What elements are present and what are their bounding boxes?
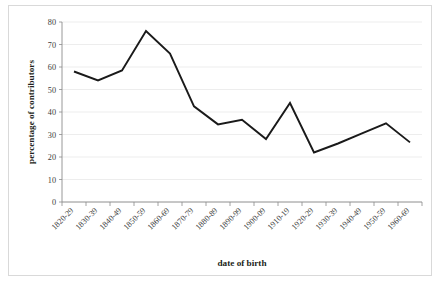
x-tick-label: 1870-79 [170,206,196,232]
y-tick-label: 0 [52,198,56,207]
x-tick-label: 1820-29 [50,206,76,232]
x-axis-group [62,202,422,206]
y-axis-title: percentage of contributors [26,60,36,164]
x-tick-label: 1960-69 [386,206,412,232]
x-tick-label: 1920-29 [290,206,316,232]
chart-figure: 01020304050607080 1820-291830-391840-491… [0,0,442,288]
y-tick-labels: 01020304050607080 [48,18,56,207]
x-tick-label: 1860-69 [146,206,172,232]
x-tick-label: 1910-19 [266,206,292,232]
x-tick-label: 1880-89 [194,206,220,232]
y-tick-label: 10 [48,176,56,185]
y-tick-label: 40 [48,108,56,117]
x-tick-label: 1940-49 [338,206,364,232]
y-tick-label: 70 [48,41,56,50]
line-chart: 01020304050607080 1820-291830-391840-491… [0,0,442,288]
y-tick-label: 80 [48,18,56,27]
x-tick-label: 1930-39 [314,206,340,232]
x-tick-label: 1830-39 [74,206,100,232]
y-tick-label: 60 [48,63,56,72]
y-tick-label: 50 [48,86,56,95]
y-axis-group [59,22,62,202]
y-tick-label: 20 [48,153,56,162]
x-axis-title: date of birth [218,258,267,268]
x-tick-label: 1900-09 [242,206,268,232]
x-tick-label: 1840-49 [98,206,124,232]
gridlines-group [62,22,422,202]
x-tick-label: 1890-99 [218,206,244,232]
y-tick-label: 30 [48,131,56,140]
x-tick-labels: 1820-291830-391840-491850-591860-691870-… [50,206,412,232]
x-tick-label: 1950-59 [362,206,388,232]
x-tick-label: 1850-59 [122,206,148,232]
